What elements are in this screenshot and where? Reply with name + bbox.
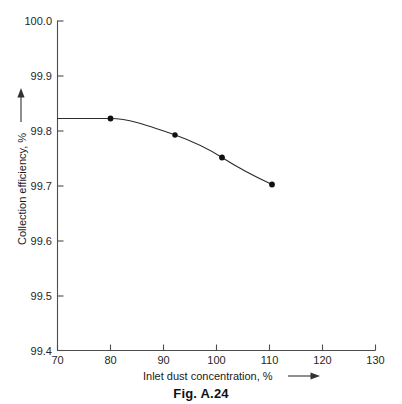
x-axis-direction-arrow-icon [288,372,320,379]
y-tick-label: 99.5 [31,290,52,302]
series-line [58,119,273,185]
y-tick-label: 99.6 [31,235,52,247]
chart-canvas: 100.0 99.9 99.8 99.7 99.6 99.5 99.4 70 8… [0,0,402,404]
figure-caption: Fig. A.24 [0,386,402,401]
data-series-group [58,116,275,188]
data-point-marker [219,155,225,161]
axis-lines [58,21,376,351]
x-tick-label: 130 [366,354,384,366]
x-axis-ticks [58,345,376,351]
y-tick-label: 99.4 [31,345,52,357]
x-axis-title: Inlet dust concentration, % [143,370,273,382]
y-axis-direction-arrow-icon [17,88,24,122]
x-axis-tick-labels: 70 80 90 100 110 120 130 [51,354,384,366]
x-tick-label: 70 [51,354,63,366]
y-tick-label: 99.7 [31,180,52,192]
y-tick-label: 99.9 [31,70,52,82]
data-point-marker [108,116,114,122]
x-tick-label: 120 [313,354,331,366]
y-axis-ticks [58,21,64,351]
data-point-marker [269,182,275,188]
axis-group [58,21,376,351]
x-tick-label: 100 [207,354,225,366]
y-axis-tick-labels: 100.0 99.9 99.8 99.7 99.6 99.5 99.4 [24,15,52,357]
x-tick-label: 110 [261,354,279,366]
figure-container: 100.0 99.9 99.8 99.7 99.6 99.5 99.4 70 8… [0,0,402,404]
x-tick-label: 90 [157,354,169,366]
data-point-marker [172,132,177,137]
y-tick-label: 99.8 [31,125,52,137]
x-tick-label: 80 [104,354,116,366]
y-tick-label: 100.0 [24,15,52,27]
y-axis-title: Collection efficiency, % [16,133,28,245]
